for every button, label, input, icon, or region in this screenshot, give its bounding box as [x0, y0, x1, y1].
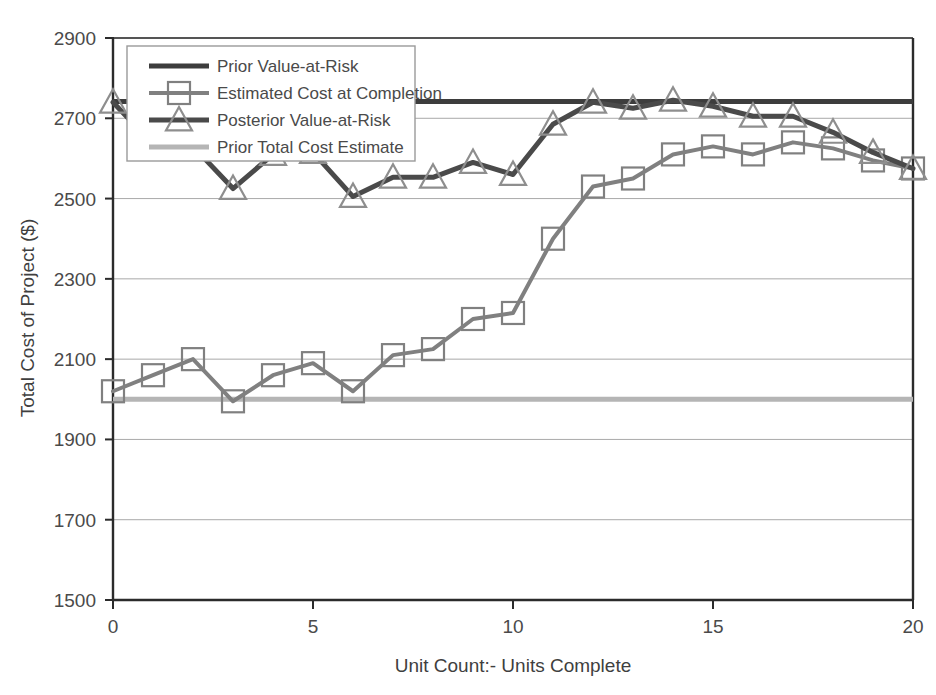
x-tick-label: 20: [902, 616, 923, 637]
legend-label: Prior Value-at-Risk: [217, 57, 359, 76]
chart-legend: Prior Value-at-RiskEstimated Cost at Com…: [127, 46, 442, 161]
y-tick-label: 2500: [54, 189, 96, 210]
y-tick-label: 2700: [54, 108, 96, 129]
x-tick-label: 15: [702, 616, 723, 637]
cost-risk-line-chart: 15001700190021002300250027002900 0510152…: [0, 0, 936, 695]
legend-label: Estimated Cost at Completion: [217, 84, 442, 103]
y-axis-title: Total Cost of Project ($): [17, 219, 38, 418]
y-tick-label: 2300: [54, 269, 96, 290]
y-tick-label: 2100: [54, 349, 96, 370]
y-tick-label: 2900: [54, 28, 96, 49]
y-tick-label: 1900: [54, 429, 96, 450]
x-tick-label: 0: [108, 616, 119, 637]
x-axis-title: Unit Count:- Units Complete: [395, 655, 632, 676]
y-tick-label: 1700: [54, 510, 96, 531]
chart-container: 15001700190021002300250027002900 0510152…: [0, 0, 936, 695]
x-tick-label: 5: [308, 616, 319, 637]
legend-label: Posterior Value-at-Risk: [217, 111, 391, 130]
y-tick-label: 1500: [54, 590, 96, 611]
x-tick-label: 10: [502, 616, 523, 637]
legend-label: Prior Total Cost Estimate: [217, 138, 404, 157]
